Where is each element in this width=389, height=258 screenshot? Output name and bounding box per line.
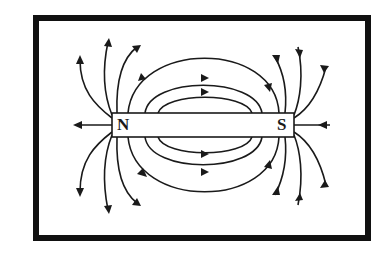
loop-below-1	[158, 137, 252, 153]
north-pole-label: N	[117, 115, 129, 135]
arrow-icon	[76, 55, 84, 64]
arrow-icon	[73, 121, 82, 129]
arrow-icon	[104, 38, 112, 47]
south-fan-7	[275, 137, 286, 195]
arrow-icon	[132, 45, 141, 53]
diagram-canvas: N S	[0, 0, 389, 258]
arrow-icon	[201, 150, 209, 158]
north-fan-2	[105, 42, 112, 115]
north-fan-6	[105, 135, 112, 210]
arrow-icon	[201, 74, 209, 82]
north-fan-1	[80, 60, 112, 118]
arrow-icon	[272, 55, 280, 64]
south-fan-1	[275, 57, 286, 113]
arrow-icon	[76, 188, 84, 197]
loop-below-2	[145, 137, 262, 165]
south-pole-label: S	[277, 115, 286, 135]
arrow-icon	[201, 88, 209, 96]
arrow-icon	[320, 65, 329, 73]
arrow-icon	[104, 205, 112, 214]
arrow-icon	[320, 180, 329, 188]
north-fan-5	[80, 132, 112, 192]
north-fan-7	[117, 137, 137, 203]
north-fan-3	[117, 47, 137, 113]
south-fan-5	[294, 132, 326, 185]
field-diagram	[0, 0, 389, 258]
loop-above-1	[158, 97, 252, 113]
bar-magnet	[112, 113, 294, 137]
arrow-icon	[201, 168, 209, 176]
south-fan-3	[294, 67, 326, 118]
arrow-icon	[318, 121, 327, 129]
arrow-icon	[264, 83, 272, 92]
